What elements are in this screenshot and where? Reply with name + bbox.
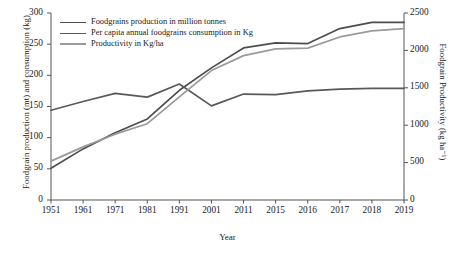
y-axis-left-tick-label: 50 [9, 162, 43, 172]
y-axis-right-tick-label: 2000 [410, 44, 450, 54]
legend-item-label: Per capita annual foodgrains consumption… [88, 28, 253, 38]
legend-swatch-icon [59, 39, 88, 49]
y-axis-left-tick-label: 150 [9, 100, 43, 110]
y-axis-right-tick-label: 1500 [410, 81, 450, 91]
y-axis-left-tick-label: 100 [9, 131, 43, 141]
y-axis-left-tick-label: 250 [9, 38, 43, 48]
legend-item-2: Productivity in Kg/ha [59, 39, 253, 49]
legend-item-0: Foodgrains production in million tonnes [59, 17, 253, 27]
y-axis-right-tick-label: 0 [410, 194, 450, 204]
y-axis-right-tick-label: 2500 [410, 7, 450, 17]
chart-legend: Foodgrains production in million tonnesP… [59, 17, 253, 50]
legend-item-label: Productivity in Kg/ha [88, 39, 164, 49]
legend-item-1: Per capita annual foodgrains consumption… [59, 28, 253, 38]
y-axis-right-tick-label: 1000 [410, 119, 450, 129]
legend-swatch-icon [59, 17, 88, 27]
series-line-1 [51, 84, 404, 110]
y-axis-left-tick-label: 0 [9, 194, 43, 204]
chart-figure: Foodgrain production (mt) and consumptio… [0, 0, 450, 255]
y-axis-left-tick-label: 300 [9, 7, 43, 17]
legend-item-label: Foodgrains production in million tonnes [88, 17, 226, 27]
y-axis-right-tick-label: 500 [410, 156, 450, 166]
legend-swatch-icon [59, 28, 88, 38]
x-axis-tick-label: 2019 [382, 205, 426, 215]
y-axis-left-tick-label: 200 [9, 69, 43, 79]
